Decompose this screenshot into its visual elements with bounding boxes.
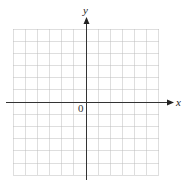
y-axis-label: y — [83, 5, 88, 16]
y-axis-arrow-icon — [84, 17, 90, 24]
origin-label: 0 — [78, 103, 84, 114]
x-axis-label: x — [176, 97, 181, 108]
x-axis-arrow-icon — [167, 100, 174, 106]
coordinate-plane — [0, 0, 183, 181]
x-axis — [6, 100, 174, 106]
